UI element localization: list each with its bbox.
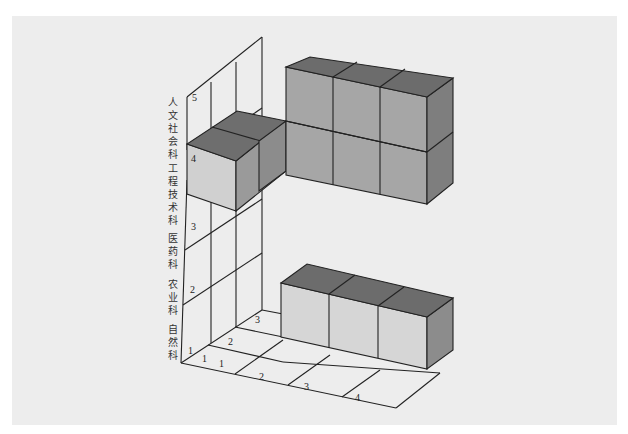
cube-block-lower: [281, 264, 453, 369]
wall-number-4: 4: [191, 153, 196, 164]
wall-numbers: 1 2 3 4 5: [188, 92, 197, 356]
floor-number-4: 4: [355, 392, 360, 403]
cube-wall-x1-z4: [187, 111, 286, 211]
label-renwen: 人文社会科: [166, 96, 180, 161]
wall-number-1: 1: [188, 345, 193, 356]
depth-number-2: 2: [228, 336, 233, 347]
floor-number-1: 1: [219, 358, 224, 369]
wall-number-3: 3: [191, 221, 196, 232]
wall-number-5: 5: [192, 92, 197, 103]
depth-number-1: 1: [202, 353, 207, 364]
label-nongye: 农业科: [166, 278, 180, 317]
wall-number-2: 2: [190, 284, 195, 295]
label-gongcheng: 工程技术科: [166, 162, 180, 227]
depth-number-3: 3: [255, 314, 260, 325]
floor-number-2: 2: [259, 371, 264, 382]
floor-number-3: 3: [304, 381, 309, 392]
cube-block-upper: [286, 57, 453, 204]
cube-diagram: 1 2 3 4 5 1 2 3 1 2 3 4: [0, 0, 628, 434]
label-ziran: 自然科: [166, 323, 180, 362]
label-yiyao: 医药科: [166, 232, 180, 271]
